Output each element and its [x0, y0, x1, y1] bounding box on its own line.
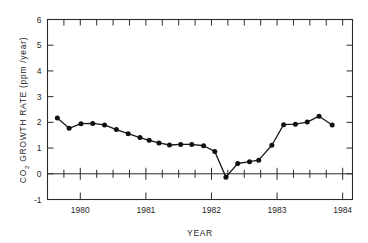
- y-axis: -10123456: [34, 15, 353, 205]
- zero-reference-line: [48, 168, 353, 180]
- chart-figure: -10123456 19801981198219831984 YEAR CO2 …: [0, 0, 368, 243]
- x-tick-label: 1984: [333, 205, 352, 215]
- data-point: [189, 142, 194, 147]
- y-tick-label: 1: [37, 143, 42, 153]
- data-point: [102, 122, 107, 127]
- data-point: [256, 158, 261, 163]
- data-point: [67, 126, 72, 131]
- y-axis-title: CO2 GROWTH RATE (ppm /year): [18, 37, 30, 183]
- data-point: [147, 138, 152, 143]
- data-point: [126, 131, 131, 136]
- data-point: [317, 114, 322, 119]
- y-tick-label: 2: [37, 117, 42, 127]
- data-point: [293, 122, 298, 127]
- y-axis-title-prefix: CO: [18, 169, 28, 183]
- data-point: [90, 121, 95, 126]
- x-tick-label: 1981: [136, 205, 155, 215]
- data-point: [167, 142, 172, 147]
- y-tick-label: 0: [37, 169, 42, 179]
- data-point: [114, 127, 119, 132]
- y-tick-label: -1: [34, 195, 42, 205]
- y-tick-label: 5: [37, 40, 42, 50]
- y-tick-label: 4: [37, 66, 42, 76]
- data-point: [178, 142, 183, 147]
- x-axis-title: YEAR: [187, 228, 213, 238]
- x-axis: 19801981198219831984: [64, 20, 352, 215]
- x-tick-label: 1980: [71, 205, 90, 215]
- data-point: [269, 143, 274, 148]
- data-point: [212, 149, 217, 154]
- data-point: [281, 122, 286, 127]
- data-point: [55, 115, 60, 120]
- data-point: [235, 161, 240, 166]
- data-point: [305, 120, 310, 125]
- x-tick-label: 1982: [202, 205, 221, 215]
- data-series-line: [57, 116, 332, 177]
- data-point: [137, 135, 142, 140]
- y-tick-label: 3: [37, 92, 42, 102]
- svg-text:CO2 GROWTH RATE (ppm /year): CO2 GROWTH RATE (ppm /year): [18, 37, 30, 183]
- plot-frame: [48, 20, 353, 200]
- data-point: [78, 121, 83, 126]
- data-point: [201, 143, 206, 148]
- x-tick-label: 1983: [268, 205, 287, 215]
- y-axis-title-suffix: GROWTH RATE (ppm /year): [18, 37, 28, 165]
- y-tick-label: 6: [37, 15, 42, 25]
- data-point: [223, 175, 228, 180]
- co2-growth-rate-line-chart: -10123456 19801981198219831984 YEAR CO2 …: [0, 0, 368, 243]
- data-point: [157, 140, 162, 145]
- data-point: [247, 159, 252, 164]
- data-point: [330, 122, 335, 127]
